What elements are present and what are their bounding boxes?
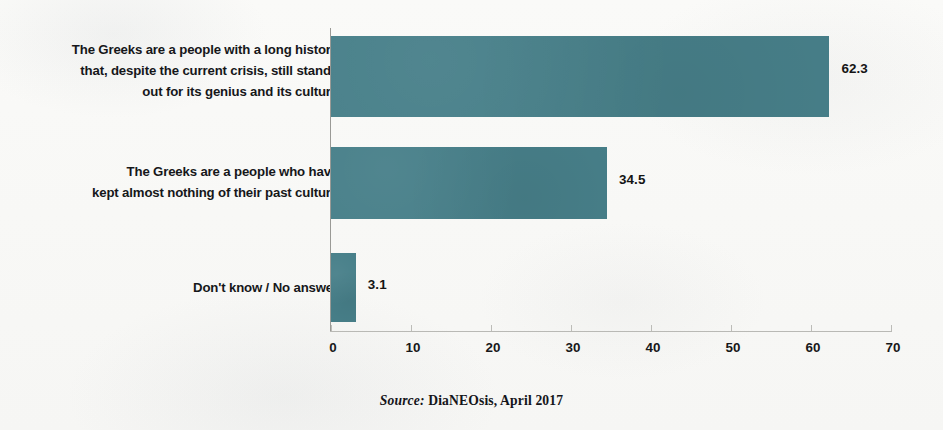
x-tick-label-10: 10 — [406, 340, 421, 355]
bar-0[interactable] — [331, 36, 829, 117]
x-tick-mark-40 — [651, 325, 652, 331]
x-tick-mark-60 — [811, 325, 812, 331]
x-tick-mark-0 — [331, 325, 332, 331]
x-tick-mark-30 — [571, 325, 572, 331]
x-tick-mark-50 — [731, 325, 732, 331]
category-label-1: The Greeks are a people who have kept al… — [20, 161, 338, 203]
bar-1[interactable] — [331, 147, 607, 219]
x-tick-mark-10 — [411, 325, 412, 331]
source-note: Source: DiaNEOsis, April 2017 — [0, 393, 943, 409]
x-tick-label-30: 30 — [566, 340, 581, 355]
category-label-2: Don't know / No answer — [20, 277, 338, 298]
source-label: Source: — [380, 393, 425, 408]
bar-chart-plot-area: The Greeks are a people with a long hist… — [0, 0, 943, 430]
x-axis-line — [330, 331, 892, 332]
source-value: DiaNEOsis, April 2017 — [425, 393, 564, 408]
bar-value-label-1: 34.5 — [619, 172, 645, 187]
x-tick-label-50: 50 — [726, 340, 741, 355]
bar-value-label-2: 3.1 — [368, 277, 387, 292]
x-tick-label-20: 20 — [486, 340, 501, 355]
x-tick-label-0: 0 — [329, 340, 336, 355]
y-axis-line — [330, 28, 331, 331]
category-label-0: The Greeks are a people with a long hist… — [20, 39, 338, 102]
bar-2[interactable] — [331, 253, 356, 322]
x-tick-mark-20 — [491, 325, 492, 331]
x-tick-label-60: 60 — [806, 340, 821, 355]
x-tick-label-70: 70 — [886, 340, 901, 355]
chart-page: The Greeks are a people with a long hist… — [0, 0, 943, 430]
bar-value-label-0: 62.3 — [841, 61, 867, 76]
x-tick-mark-70 — [891, 325, 892, 331]
x-tick-label-40: 40 — [646, 340, 661, 355]
